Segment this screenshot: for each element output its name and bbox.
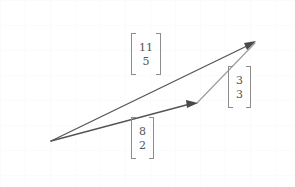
bracket-right-icon: [156, 33, 161, 75]
delta-vector-components: 3 3: [233, 73, 246, 102]
delta-vector-component-y: 3: [236, 89, 243, 100]
base-vector-components: 8 2: [136, 124, 149, 153]
bracket-right-icon: [149, 117, 154, 159]
base-vector-line: [51, 104, 190, 141]
sum-vector-component-x: 11: [139, 42, 153, 53]
sum-vector-component-y: 5: [143, 56, 150, 67]
base-vector-arrowhead: [186, 100, 198, 108]
delta-vector-component-x: 3: [236, 75, 243, 86]
delta-vector-label: 3 3: [228, 66, 251, 108]
base-vector-component-x: 8: [139, 126, 146, 137]
base-vector-label: 8 2: [131, 117, 154, 159]
base-vector-component-y: 2: [139, 140, 146, 151]
bracket-right-icon: [246, 66, 251, 108]
sum-vector-label: 11 5: [131, 33, 161, 75]
sum-vector-components: 11 5: [136, 40, 156, 69]
vector-diagram-canvas: 11 5 8 2 3 3: [0, 0, 295, 187]
